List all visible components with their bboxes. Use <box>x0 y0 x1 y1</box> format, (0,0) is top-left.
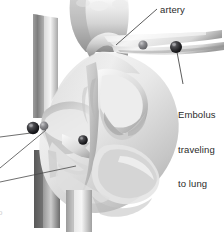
embolus-atrium-dark <box>27 122 39 134</box>
label-embolus-line-2: traveling <box>178 144 216 156</box>
label-embolus-line-3: to lung <box>178 178 216 190</box>
label-embolus: Embolus traveling to lung <box>178 86 216 213</box>
descending-vessel-front <box>66 190 92 232</box>
embolus-center <box>78 135 88 145</box>
corner-mark: o <box>0 208 2 217</box>
embolus-artery-right <box>170 41 182 53</box>
heart-embolus-figure: artery Embolus traveling to lung o <box>0 0 224 232</box>
label-artery: artery <box>160 4 185 16</box>
label-embolus-line-1: Embolus <box>178 109 216 121</box>
embolus-artery-left <box>138 40 147 49</box>
embolus-atrium-mid <box>40 122 49 131</box>
